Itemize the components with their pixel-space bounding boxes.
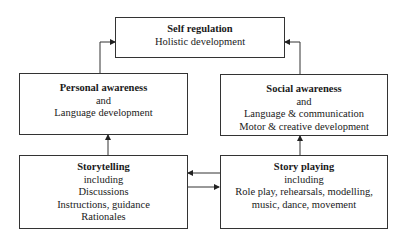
- node-title: Personal awareness: [20, 82, 187, 95]
- node-title: Social awareness: [221, 83, 387, 96]
- node-line: Motor & creative development: [221, 121, 387, 134]
- node-self-regulation: Self regulation Holistic development: [115, 17, 285, 58]
- node-line: Discussions: [20, 186, 187, 199]
- node-personal-awareness: Personal awareness and Language developm…: [19, 73, 188, 135]
- node-line: music, dance, movement: [221, 199, 387, 212]
- arrow-personal-to-self-regulation: [100, 42, 115, 73]
- node-line: Holistic development: [116, 36, 284, 49]
- node-line: Instructions, guidance: [20, 199, 187, 212]
- node-line: and: [221, 96, 387, 109]
- node-line: Language & communication: [221, 108, 387, 121]
- node-story-playing: Story playing including Role play, rehea…: [220, 155, 388, 229]
- node-line: and: [20, 95, 187, 108]
- node-social-awareness: Social awareness and Language & communic…: [220, 74, 388, 136]
- arrow-social-to-self-regulation: [285, 42, 300, 74]
- node-line: Role play, rehearsals, modelling,: [221, 186, 387, 199]
- node-line: including: [221, 174, 387, 187]
- node-line: Rationales: [20, 211, 187, 224]
- node-line: including: [20, 174, 187, 187]
- node-title: Self regulation: [116, 23, 284, 36]
- node-line: Language development: [20, 107, 187, 120]
- node-title: Story playing: [221, 161, 387, 174]
- node-storytelling: Storytelling including Discussions Instr…: [19, 155, 188, 229]
- node-title: Storytelling: [20, 161, 187, 174]
